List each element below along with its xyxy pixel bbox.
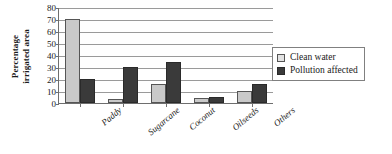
legend-entry[interactable]: Pollution affected (277, 64, 358, 77)
y-axis-tick-label: 60 (38, 28, 56, 37)
legend-label: Clean water (290, 52, 336, 63)
bar-group (102, 8, 145, 103)
bars-layer (59, 8, 273, 103)
bar[interactable] (194, 98, 209, 103)
x-axis-label: Others (271, 105, 296, 128)
legend-swatch-pollution-affected-icon (277, 67, 285, 75)
legend-swatch-clean-water-icon (277, 54, 285, 62)
bar[interactable] (252, 84, 267, 103)
y-axis-tick-label: 10 (38, 88, 56, 97)
x-axis-label: Sugarcane (145, 105, 181, 137)
bar[interactable] (237, 91, 252, 103)
plot-area (58, 8, 273, 104)
bar-chart-figure: Percentage irrigated area 80706050403020… (0, 0, 392, 154)
bar[interactable] (80, 79, 95, 103)
y-axis-tick-label: 30 (38, 64, 56, 73)
y-axis-title-line-2: irrigated area (20, 29, 31, 83)
bar-group (59, 8, 102, 103)
legend-entry[interactable]: Clean water (277, 51, 358, 64)
y-axis-title: Percentage irrigated area (0, 0, 40, 112)
x-axis-label: Paddy (99, 105, 123, 127)
bar[interactable] (209, 97, 224, 103)
bar[interactable] (123, 67, 138, 103)
x-axis-label: Oilseeds (230, 105, 260, 133)
bar-group (230, 8, 273, 103)
bar[interactable] (151, 84, 166, 103)
bar[interactable] (108, 99, 123, 103)
y-axis-tick-labels: 80706050403020100 (38, 8, 56, 104)
y-axis-tick-label: 0 (38, 100, 56, 109)
x-axis-category-labels: PaddySugarcaneCoconutOilseedsOthers (58, 105, 273, 154)
chart-legend: Clean waterPollution affected (272, 47, 365, 81)
y-axis-tick-label: 50 (38, 40, 56, 49)
bar[interactable] (65, 19, 80, 103)
y-axis-title-line-1: Percentage (10, 29, 21, 83)
bar[interactable] (166, 62, 181, 103)
bar-group (187, 8, 230, 103)
legend-label: Pollution affected (290, 65, 358, 76)
y-axis-tick-label: 80 (38, 4, 56, 13)
bar-group (145, 8, 188, 103)
y-axis-tick-label: 70 (38, 16, 56, 25)
x-axis-label: Coconut (187, 105, 217, 132)
y-axis-tick-label: 20 (38, 76, 56, 85)
y-axis-tick-label: 40 (38, 52, 56, 61)
